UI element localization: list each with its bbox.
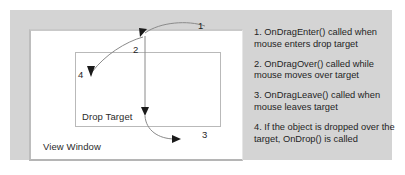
legend-list: 1. OnDragEnter() called when mouse enter… [254, 27, 402, 145]
view-window-label: View Window [43, 141, 101, 152]
callout-label-4: 4 [78, 70, 83, 80]
callout-label-2: 2 [133, 45, 138, 55]
legend-item-ondragenter: 1. OnDragEnter() called when mouse enter… [254, 27, 402, 50]
drag-drop-event-diagram: Drop Target View Window 1. OnDragEnter()… [0, 0, 405, 175]
legend-item-ondragleave: 3. OnDragLeave() called when mouse leave… [254, 90, 402, 113]
legend-item-ondragover: 2. OnDragOver() called while mouse moves… [254, 59, 402, 82]
legend-item-ondrop: 4. If the object is dropped over the tar… [254, 122, 402, 145]
drop-target-box: Drop Target [75, 52, 221, 127]
diagram-panel: Drop Target View Window 1. OnDragEnter()… [10, 10, 392, 160]
callout-label-3: 3 [202, 130, 207, 140]
drop-target-label: Drop Target [82, 111, 133, 122]
callout-label-1: 1 [198, 21, 203, 31]
